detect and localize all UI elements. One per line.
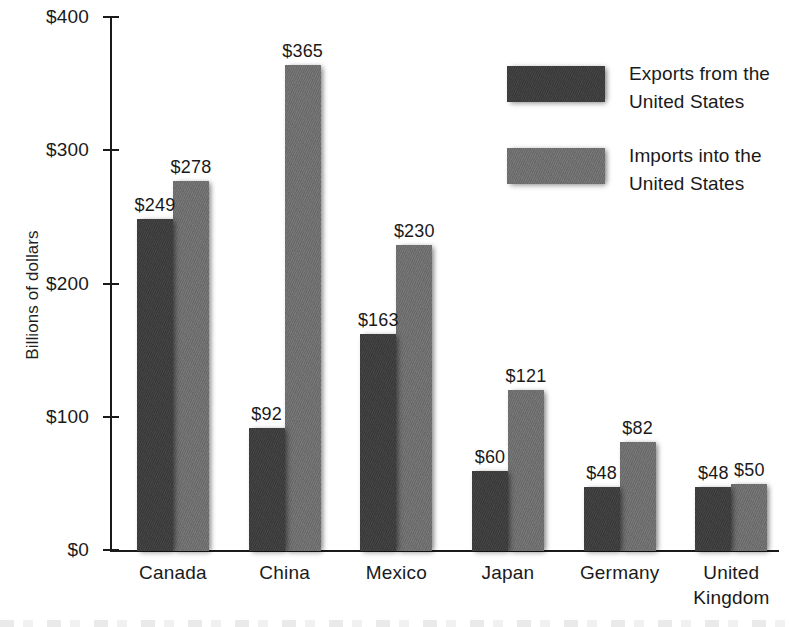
chart-legend: Exports from the United StatesImports in… — [507, 60, 789, 224]
bar-exports[interactable]: $48 — [584, 487, 620, 551]
bar-group: $163$230 — [360, 18, 432, 551]
bar-imports[interactable]: $230 — [396, 245, 432, 551]
bar-value-label: $82 — [622, 418, 653, 439]
legend-item[interactable]: Imports into the United States — [507, 142, 789, 224]
bar-exports[interactable]: $163 — [360, 334, 396, 551]
bar-exports[interactable]: $60 — [472, 471, 508, 551]
bar-value-label: $48 — [586, 463, 617, 484]
bar-value-label: $230 — [394, 221, 435, 242]
legend-label: Imports into the United States — [629, 142, 762, 198]
bar-imports[interactable]: $365 — [285, 65, 321, 551]
scan-artifact-strip — [0, 620, 789, 627]
bar-value-label: $249 — [135, 195, 176, 216]
bar-value-label: $163 — [358, 310, 399, 331]
bar-value-label: $121 — [506, 366, 547, 387]
bar-imports[interactable]: $82 — [620, 442, 656, 551]
bar-group: $249$278 — [137, 18, 209, 551]
bar-exports[interactable]: $48 — [695, 487, 731, 551]
y-tick-label: $0 — [67, 539, 89, 561]
bar-exports[interactable]: $92 — [249, 428, 285, 551]
bar-value-label: $365 — [282, 41, 323, 62]
bar-value-label: $50 — [734, 460, 765, 481]
category-label-line: Kingdom — [661, 585, 789, 610]
legend-swatch-imports — [507, 148, 605, 184]
bar-value-label: $60 — [475, 447, 506, 468]
legend-item[interactable]: Exports from the United States — [507, 60, 789, 142]
bar-value-label: $278 — [171, 157, 212, 178]
y-tick-label: $300 — [46, 139, 89, 161]
category-label-line: United — [661, 560, 789, 585]
y-axis-title: Billions of dollars — [23, 200, 43, 390]
bar-value-label: $92 — [251, 404, 282, 425]
y-tick-label: $400 — [46, 6, 89, 28]
bar-exports[interactable]: $249 — [137, 219, 173, 551]
y-tick-label: $200 — [46, 273, 89, 295]
bar-imports[interactable]: $121 — [508, 390, 544, 551]
bar-imports[interactable]: $50 — [731, 484, 767, 551]
y-tick-label: $100 — [46, 406, 89, 428]
legend-label: Exports from the United States — [629, 60, 770, 116]
category-label: UnitedKingdom — [661, 560, 789, 610]
bar-imports[interactable]: $278 — [173, 181, 209, 551]
bar-group: $92$365 — [249, 18, 321, 551]
bar-value-label: $48 — [698, 463, 729, 484]
bar-chart: Billions of dollars $0$100$200$300$400 $… — [0, 0, 789, 627]
legend-swatch-exports — [507, 66, 605, 102]
